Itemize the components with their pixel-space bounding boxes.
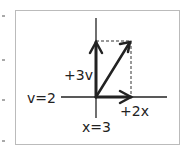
x-axis-label: x=3 <box>82 120 111 134</box>
left-edge-ticks <box>2 16 5 141</box>
right-vector-label: +2x <box>120 104 149 118</box>
up-vector-label: +3v <box>64 68 93 82</box>
v-axis-label: v=2 <box>27 91 56 105</box>
right-arrow <box>96 91 131 103</box>
